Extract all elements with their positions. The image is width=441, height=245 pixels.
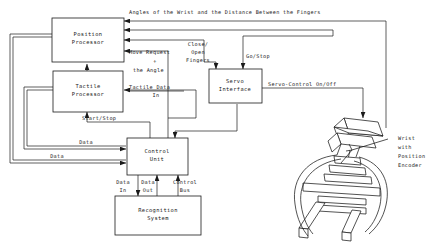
robot-gripper-illustration [294, 118, 388, 241]
tactile-processor-label-line2: Processor [72, 91, 105, 97]
wrist-label-line1: Wrist [398, 135, 415, 141]
label-start-stop: Start/Stop [82, 115, 116, 122]
tactile-processor-label-line1: Tactile [75, 83, 100, 89]
label-data-in-line1: Data [116, 179, 130, 185]
label-data-in-line2: In [120, 187, 127, 193]
label-data-lower: Data [50, 153, 64, 159]
wrist-label-line3: Position [398, 153, 425, 159]
recognition-system-label-line2: System [147, 215, 169, 222]
wrist-label-line4: Encoder [398, 162, 422, 168]
label-tactile-data-line1: Tactile Data [129, 84, 170, 90]
control-unit-label-line2: Unit [150, 156, 164, 162]
label-tactile-data-line2: In [153, 92, 160, 98]
wire-tactile-data-in-riser [168, 90, 196, 118]
label-move-request-line1: Move Request [129, 49, 170, 56]
control-unit-label-line1: Control [144, 148, 169, 154]
label-data-out-line1: Data [141, 179, 155, 185]
position-processor-label-line1: Position [74, 31, 103, 37]
block-servo-interface[interactable]: Servo Interface [209, 69, 262, 103]
block-tactile-processor[interactable]: Tactile Processor [53, 71, 123, 112]
label-data-upper: Data [79, 139, 93, 145]
label-move-request-line3: the Angle [133, 67, 164, 74]
servo-interface-label-line1: Servo [226, 78, 244, 84]
block-control-unit[interactable]: Control Unit [127, 138, 188, 175]
label-angles-of-wrist: Angles of the Wrist and the Distance Bet… [129, 9, 321, 16]
label-control-bus-line1: Control [173, 179, 197, 185]
servo-interface-label-line2: Interface [219, 86, 251, 92]
label-servo-control-onoff: Servo-Control On/Off [268, 81, 336, 87]
wire-servo-control-onoff [262, 88, 363, 118]
label-go-stop: Go/Stop [246, 53, 270, 60]
block-diagram-canvas: Position Processor Tactile Processor Con… [0, 0, 441, 245]
label-close-open-line1: Close/ [188, 41, 209, 47]
label-close-open-line3: Fingers [186, 57, 210, 64]
label-data-out-line2: Out [143, 187, 153, 193]
wire-control-unit-top-in [175, 104, 237, 138]
label-control-bus-line2: Bus [180, 187, 190, 193]
wrist-label-line2: with [398, 144, 412, 150]
block-position-processor[interactable]: Position Processor [52, 18, 124, 62]
position-processor-label-line2: Processor [72, 39, 105, 45]
label-move-request-line2: + [153, 58, 156, 64]
block-recognition-system[interactable]: Recognition System [115, 196, 201, 235]
label-close-open-line2: Open [191, 49, 205, 56]
recognition-system-label-line1: Recognition [138, 207, 178, 214]
